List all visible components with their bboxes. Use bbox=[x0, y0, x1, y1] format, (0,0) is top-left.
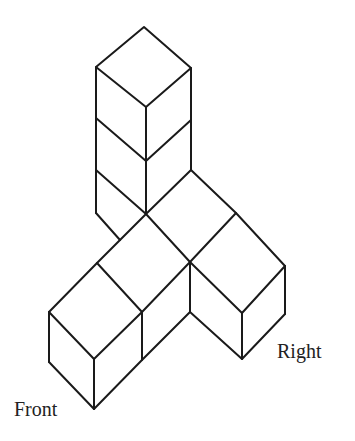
right-arm bbox=[190, 170, 285, 359]
front-arm bbox=[49, 214, 190, 409]
front-label: Front bbox=[14, 399, 57, 419]
right-label: Right bbox=[277, 341, 321, 361]
cube-column bbox=[96, 27, 191, 240]
isometric-cube-figure bbox=[0, 0, 355, 441]
